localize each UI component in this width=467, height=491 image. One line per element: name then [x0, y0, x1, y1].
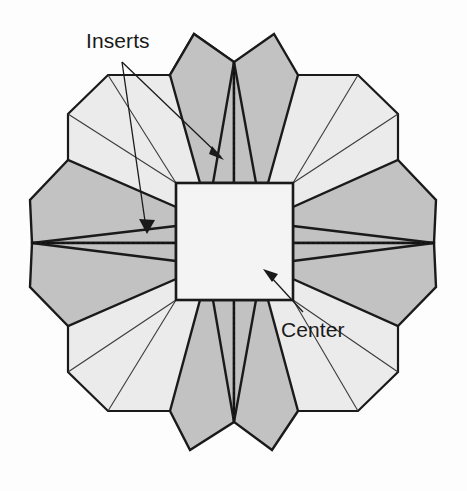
inserts-label: Inserts — [86, 29, 150, 52]
origami-diagram: Inserts Center — [0, 0, 467, 491]
figure-canvas: Inserts Center — [0, 0, 467, 491]
center-label: Center — [281, 318, 345, 341]
